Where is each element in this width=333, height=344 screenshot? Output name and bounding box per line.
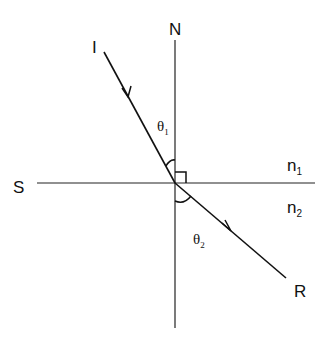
refraction-diagram: N I S R n1 n2 θ1 θ2 (0, 0, 333, 344)
refracted-label: R (294, 282, 306, 301)
surface-label: S (13, 178, 24, 197)
n1-label: n1 (287, 156, 302, 177)
n2-label: n2 (287, 198, 302, 219)
normal-label: N (169, 20, 181, 39)
theta1-arc (166, 160, 175, 166)
theta1-label: θ1 (157, 118, 169, 137)
right-angle-marker (175, 172, 186, 183)
refracted-arrow-icon (222, 220, 231, 231)
theta2-label: θ2 (193, 231, 205, 250)
theta2-arc (175, 196, 191, 202)
incident-ray (104, 52, 175, 183)
incident-label: I (92, 38, 97, 57)
